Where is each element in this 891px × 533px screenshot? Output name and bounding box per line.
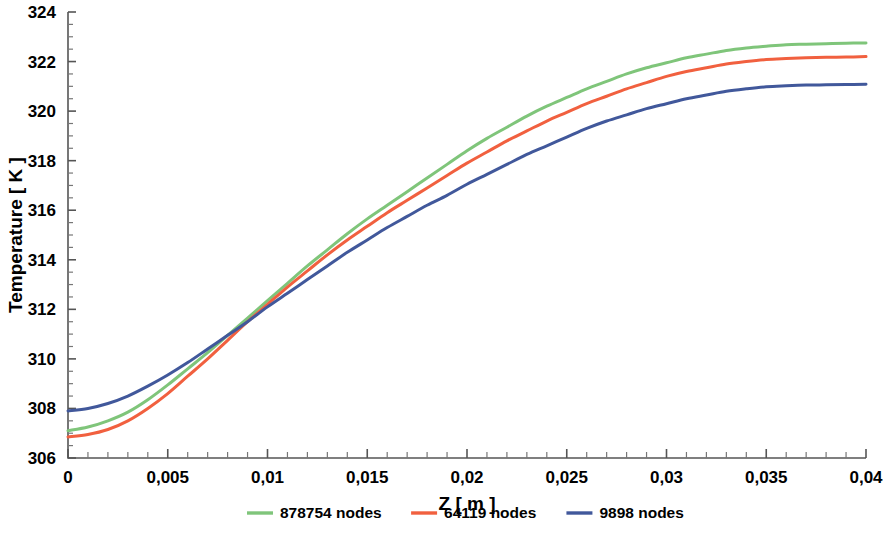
x-tick-label: 0,015 [346,468,389,487]
legend-label-1: 64119 nodes [444,504,536,521]
x-tick-label: 0,03 [650,468,683,487]
legend-label-0: 878754 nodes [280,504,382,521]
series-line-1 [68,57,866,437]
x-tick-label: 0,025 [545,468,588,487]
y-tick-label: 314 [28,251,57,270]
x-tick-label: 0 [63,468,72,487]
series-line-0 [68,43,866,431]
series-layer [68,43,866,437]
x-tick-label: 0,02 [450,468,483,487]
y-tick-label: 318 [28,152,56,171]
temperature-vs-z-line-chart: 30630831031231431631832032232400,0050,01… [0,0,891,533]
y-tick-label: 310 [28,350,56,369]
axis-spines [68,12,866,458]
x-tick-label: 0,005 [146,468,189,487]
y-tick-label: 324 [28,3,57,22]
series-line-2 [68,84,866,411]
x-tick-label: 0,01 [251,468,284,487]
y-tick-label: 308 [28,399,56,418]
legend-item: 9898 nodes [566,504,683,521]
y-tick-label: 306 [28,449,56,468]
y-tick-label: 322 [28,53,56,72]
legend-label-2: 9898 nodes [599,504,683,521]
axis-labels-layer: 30630831031231431631832032232400,0050,01… [5,3,883,514]
axes-layer [68,12,866,458]
chart-figure: 30630831031231431631832032232400,0050,01… [0,0,891,533]
x-tick-label: 0,035 [745,468,788,487]
y-tick-label: 316 [28,201,56,220]
y-axis-title: Temperature [ K ] [5,157,26,313]
y-tick-label: 312 [28,300,56,319]
x-tick-label: 0,04 [849,468,883,487]
chart-legend: 878754 nodes64119 nodes9898 nodes [247,504,684,521]
legend-item: 64119 nodes [411,504,536,521]
y-tick-label: 320 [28,102,56,121]
legend-item: 878754 nodes [247,504,382,521]
